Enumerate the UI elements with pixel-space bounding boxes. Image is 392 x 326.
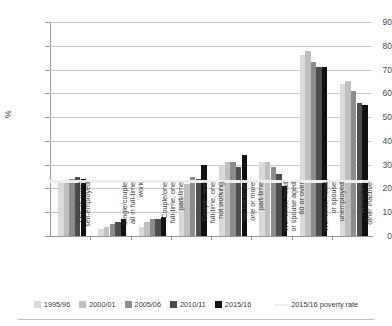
chart-legend: 1995/962000/012005/062010/112015/162015/… xyxy=(0,300,392,309)
legend-item[interactable]: 2000/01 xyxy=(79,300,115,309)
x-axis-tick-label: Workless, head or spouse unemployed xyxy=(322,182,347,240)
bar xyxy=(155,219,160,236)
bar xyxy=(64,181,69,236)
bar xyxy=(311,62,316,236)
legend-label: 1995/96 xyxy=(44,300,70,309)
x-axis-tick-mark xyxy=(171,236,172,240)
bar xyxy=(150,219,155,236)
bar xyxy=(69,179,74,236)
legend-color-swatch xyxy=(125,301,132,308)
chart-figure: % 0102030405060708090 One or more self-e… xyxy=(0,0,392,326)
x-axis-tick-mark xyxy=(251,236,252,240)
bar xyxy=(58,181,63,236)
x-axis-tick-label: One or more self-employed xyxy=(76,182,92,240)
legend-item[interactable]: 2015/16 xyxy=(215,300,251,309)
x-axis-tick-label: Workless, other inactive xyxy=(358,182,374,240)
footer-divider xyxy=(18,319,374,320)
legend-color-swatch xyxy=(34,301,41,308)
x-axis-tick-mark xyxy=(292,236,293,240)
x-axis-tick-mark xyxy=(211,236,212,240)
legend-label: 2005/06 xyxy=(135,300,161,309)
y-axis-tick-mark xyxy=(45,236,50,237)
x-axis-tick-label: Single/couple all in full-time work xyxy=(121,182,146,240)
bar xyxy=(351,91,356,236)
legend-item[interactable]: 2015/16 poverty rate xyxy=(274,300,358,309)
bar xyxy=(265,162,270,236)
x-axis-tick-label: Couple/one full-time, one part-time xyxy=(161,182,186,240)
legend-label: 2010/11 xyxy=(180,300,206,309)
legend-label: 2015/16 poverty rate xyxy=(291,300,358,309)
bar xyxy=(190,177,195,236)
legend-item[interactable]: 1995/96 xyxy=(34,300,70,309)
legend-label: 2000/01 xyxy=(89,300,115,309)
bar xyxy=(271,167,276,236)
x-axis-tick-label: Workless, head or spouse aged 60 or over xyxy=(282,182,307,240)
x-axis-tick-mark xyxy=(332,236,333,240)
x-axis-tick-label: No full-time, one or more part-time xyxy=(241,182,266,240)
legend-line-marker xyxy=(274,304,288,306)
bar xyxy=(110,224,115,236)
x-axis-tick-mark xyxy=(131,236,132,240)
y-axis-label: % xyxy=(3,110,13,118)
bar xyxy=(98,229,103,236)
bar xyxy=(230,162,235,236)
legend-label: 2015/16 xyxy=(225,300,251,309)
x-axis-tick-mark xyxy=(90,236,91,240)
legend-item[interactable]: 2010/11 xyxy=(170,300,206,309)
legend-color-swatch xyxy=(79,301,86,308)
legend-color-swatch xyxy=(170,301,177,308)
bar xyxy=(104,227,109,237)
legend-item[interactable]: 2005/06 xyxy=(125,300,161,309)
x-axis-tick-label: Couple, one full-time, one not working xyxy=(201,182,226,240)
legend-color-swatch xyxy=(215,301,222,308)
